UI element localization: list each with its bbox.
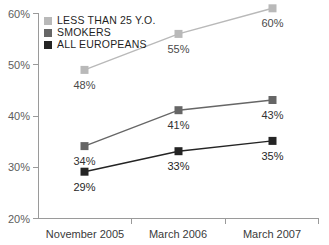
legend-item-smokers: SMOKERS [44,26,111,38]
y-axis-labels: 60% 50% 40% 30% 20% [8,8,30,225]
series-all-europeans: 29% 33% 35% [73,137,283,193]
data-point-label: 55% [167,43,189,55]
y-axis-ticks [33,14,39,219]
legend-swatch-icon [44,17,52,25]
data-point-marker [269,96,277,104]
legend-item-label: LESS THAN 25 Y.O. [57,14,156,26]
x-tick-label: March 2007 [243,228,301,240]
data-point-marker [175,30,183,38]
x-tick-label: March 2006 [149,228,207,240]
legend-item-label: ALL EUROPEANS [57,38,147,50]
data-point-marker [81,168,89,176]
legend-item-label: SMOKERS [57,26,111,38]
data-point-marker [81,66,89,74]
y-tick-label: 40% [8,110,30,122]
series-smokers: 34% 41% 43% [73,96,283,167]
legend-swatch-icon [44,29,52,37]
y-tick-label: 50% [8,59,30,71]
data-point-label: 60% [261,17,283,29]
y-tick-label: 20% [8,213,30,225]
data-point-marker [81,142,89,150]
chart-plot-area: 60% 50% 40% 30% 20% November 2005 March … [0,0,329,245]
data-point-marker [175,106,183,114]
data-point-label: 29% [73,181,95,193]
x-axis-ticks [132,219,319,225]
data-point-marker [269,4,277,12]
data-point-marker [175,147,183,155]
x-tick-label: November 2005 [46,228,124,240]
data-point-marker [269,137,277,145]
data-point-label: 41% [167,119,189,131]
legend-swatch-icon [44,41,52,49]
line-chart: 60% 50% 40% 30% 20% November 2005 March … [0,0,329,245]
y-tick-label: 60% [8,8,30,20]
x-axis-labels: November 2005 March 2006 March 2007 [46,228,301,240]
chart-legend: LESS THAN 25 Y.O. SMOKERS ALL EUROPEANS [44,14,156,50]
data-point-label: 43% [261,109,283,121]
data-point-label: 34% [73,155,95,167]
legend-item-all-europeans: ALL EUROPEANS [44,38,147,50]
y-tick-label: 30% [8,161,30,173]
legend-item-less-than-25: LESS THAN 25 Y.O. [44,14,156,26]
data-point-label: 35% [261,150,283,162]
data-point-label: 33% [167,160,189,172]
data-point-label: 48% [73,79,95,91]
